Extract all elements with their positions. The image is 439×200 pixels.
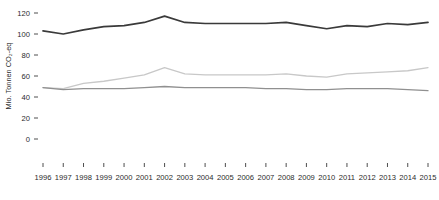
x-tick-label: 2008 <box>278 173 295 182</box>
x-tick-label: 2013 <box>379 173 396 182</box>
line-chart: 020406080100120 199619971998199920002001… <box>0 0 439 200</box>
y-tick-label: 80 <box>22 51 30 60</box>
x-tick-label: 1999 <box>95 173 112 182</box>
x-tick-label: 2005 <box>217 173 234 182</box>
y-tick-label: 0 <box>26 135 30 144</box>
series-lines <box>43 16 428 91</box>
x-tick-label: 2011 <box>339 173 355 182</box>
x-tick-label: 2012 <box>359 173 376 182</box>
x-tick-label: 2002 <box>156 173 173 182</box>
series-line-series-top <box>43 16 428 34</box>
x-tick-label: 2006 <box>237 173 254 182</box>
y-axis-title: Mio. Tonnen CO₂-eq <box>4 43 13 110</box>
x-tick-label: 2014 <box>399 173 416 182</box>
x-tick-label: 2000 <box>116 173 133 182</box>
x-tick-label: 2003 <box>176 173 193 182</box>
y-tick-label: 60 <box>22 72 30 81</box>
x-axis: 1996199719981999200020012002200320042005… <box>35 163 437 182</box>
y-tick-label: 40 <box>22 93 30 102</box>
y-axis: 020406080100120 <box>17 9 38 144</box>
chart-container: 020406080100120 199619971998199920002001… <box>0 0 439 200</box>
y-tick-label: 100 <box>17 30 30 39</box>
x-tick-label: 1997 <box>55 173 72 182</box>
series-line-series-middle <box>43 68 428 89</box>
y-tick-label: 20 <box>22 114 30 123</box>
x-tick-label: 2015 <box>420 173 437 182</box>
x-tick-label: 2010 <box>318 173 335 182</box>
x-tick-label: 2007 <box>257 173 274 182</box>
y-tick-label: 120 <box>17 9 30 18</box>
x-tick-label: 2001 <box>136 173 153 182</box>
x-tick-label: 1998 <box>75 173 92 182</box>
series-line-series-bottom <box>43 87 428 91</box>
x-tick-label: 2004 <box>197 173 214 182</box>
x-tick-label: 1996 <box>35 173 52 182</box>
x-tick-label: 2009 <box>298 173 315 182</box>
